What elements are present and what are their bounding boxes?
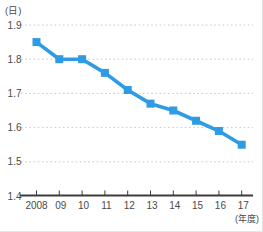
data-point-marker [101,69,109,77]
x-tick-label: 10 [78,200,90,211]
data-point-marker [78,55,86,63]
data-point-marker [238,141,246,149]
x-tick-label: 17 [238,200,250,211]
x-tick-label: 09 [55,200,67,211]
y-tick-label: 1.5 [8,156,22,167]
data-point-marker [55,55,63,63]
data-point-marker [169,107,177,115]
x-tick-label: 14 [169,200,181,211]
y-tick-label: 1.4 [8,191,22,202]
data-point-marker [33,38,41,46]
data-point-marker [147,100,155,108]
x-tick-label: 11 [101,200,112,211]
x-tick-label: 13 [146,200,158,211]
chart-panel: 1.91.81.71.61.51.4(日)2008091011121314151… [0,0,263,232]
data-point-marker [215,127,223,135]
y-tick-label: 1.8 [8,54,22,65]
y-tick-label: 1.6 [8,122,22,133]
x-tick-label: 12 [124,200,136,211]
y-tick-label: 1.9 [8,20,22,31]
x-axis-unit-label: (年度) [235,213,259,224]
x-tick-label: 15 [192,200,204,211]
y-axis-unit-label: (日) [5,5,21,16]
data-point-marker [124,86,132,94]
x-tick-label: 2008 [25,200,48,211]
x-tick-label: 16 [215,200,227,211]
data-point-marker [192,117,200,125]
y-tick-label: 1.7 [8,88,22,99]
line-chart: 1.91.81.71.61.51.4(日)2008091011121314151… [0,0,263,232]
